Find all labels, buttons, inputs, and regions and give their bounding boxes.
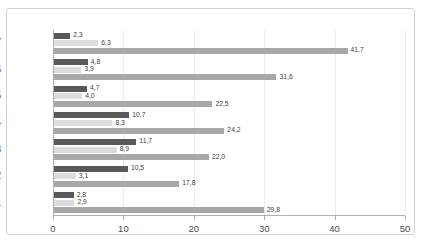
- bar: [54, 173, 76, 179]
- bar-value-label: 2,8: [77, 192, 86, 198]
- bar-value-label: 41,7: [351, 47, 364, 53]
- y-axis-category-label: 2004: [0, 116, 1, 128]
- x-axis-tick: [405, 216, 406, 220]
- bar-value-label: 3,9: [84, 66, 93, 72]
- x-gridline: [264, 30, 265, 216]
- bar: [54, 139, 136, 145]
- bar-value-label: 22,5: [215, 101, 228, 107]
- plot-area: 0102030405020072,36,341,720064,83,931,62…: [53, 30, 405, 216]
- x-axis-tick-label: 20: [189, 223, 200, 234]
- bar-value-label: 11,7: [139, 138, 152, 144]
- x-axis-tick: [123, 216, 124, 220]
- bar: [54, 166, 128, 172]
- bar-value-label: 4,8: [91, 59, 100, 65]
- bar: [54, 101, 212, 107]
- bar-value-label: 4,7: [90, 85, 99, 91]
- x-axis-tick-label: 40: [329, 223, 340, 234]
- bar-value-label: 10,7: [132, 112, 145, 118]
- bar: [54, 67, 81, 73]
- bar-value-label: 6,3: [101, 40, 110, 46]
- bar-value-label: 22,0: [212, 154, 225, 160]
- y-axis-category-label: 2003: [0, 143, 1, 155]
- x-axis-tick: [335, 216, 336, 220]
- bar: [54, 112, 129, 118]
- bar-value-label: 4,0: [85, 93, 94, 99]
- x-axis-tick-label: 0: [50, 223, 55, 234]
- bar: [54, 40, 98, 46]
- bar: [54, 154, 209, 160]
- bar-value-label: 10,5: [131, 165, 144, 171]
- bar-value-label: 8,9: [120, 146, 129, 152]
- bar: [54, 86, 87, 92]
- bar: [54, 33, 70, 39]
- bar-value-label: 2,3: [73, 32, 82, 38]
- bar-value-label: 3,1: [79, 173, 88, 179]
- x-axis-tick: [264, 216, 265, 220]
- x-axis-line: [53, 215, 405, 216]
- y-axis-category-label: 2006: [0, 63, 1, 75]
- bar-value-label: 29,8: [267, 207, 280, 213]
- bar: [54, 207, 264, 213]
- x-axis-tick-label: 10: [118, 223, 129, 234]
- x-axis-tick-label: 50: [400, 223, 411, 234]
- bar: [54, 120, 112, 126]
- bar: [54, 147, 117, 153]
- y-axis-category-label: 2007: [0, 36, 1, 48]
- bar: [54, 93, 82, 99]
- bar-value-label: 31,6: [279, 74, 292, 80]
- y-axis-category-label: 2002: [0, 169, 1, 181]
- bar-value-label: 2,9: [77, 199, 86, 205]
- bar: [54, 128, 224, 134]
- x-axis-tick-label: 30: [259, 223, 270, 234]
- bar-value-label: 8,3: [115, 120, 124, 126]
- y-axis-category-label: 2005: [0, 89, 1, 101]
- x-axis-tick: [53, 216, 54, 220]
- x-gridline: [405, 30, 406, 216]
- y-axis-category-label: 2001: [0, 196, 1, 208]
- bar-value-label: 17,8: [182, 180, 195, 186]
- bar: [54, 192, 74, 198]
- bar: [54, 200, 74, 206]
- bar: [54, 48, 348, 54]
- chart-frame: 0102030405020072,36,341,720064,83,931,62…: [6, 8, 415, 235]
- bar: [54, 181, 179, 187]
- x-axis-tick: [194, 216, 195, 220]
- bar: [54, 74, 276, 80]
- bar-value-label: 24,2: [227, 127, 240, 133]
- x-gridline: [194, 30, 195, 216]
- x-gridline: [335, 30, 336, 216]
- bar: [54, 59, 88, 65]
